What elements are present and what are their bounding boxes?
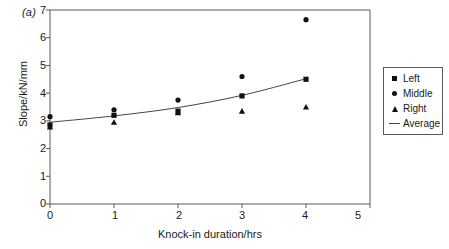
axis-ticks [46,10,370,208]
circle-marker-icon [388,91,401,96]
figure-panel-a: (a) Slope/kN/mm Knock-in duration/hrs 7 … [0,0,449,249]
data-point-right-4 [303,104,309,110]
data-point-right-3 [239,108,245,114]
data-point-left-3 [239,93,244,98]
data-point-middle-1 [111,107,116,112]
plot-canvas [0,0,449,249]
legend-item-middle[interactable]: Middle [384,86,442,101]
legend-label-average: Average [403,119,440,129]
data-point-right-1 [111,119,117,125]
plot-frame [50,10,370,204]
data-point-middle-3 [239,74,244,79]
data-point-left-1 [111,113,116,118]
legend-label-middle: Middle [403,89,432,99]
square-marker-icon [388,76,401,81]
legend-label-left: Left [403,74,420,84]
data-point-middle-4 [303,17,308,22]
data-point-middle-0 [47,114,52,119]
data-point-left-4 [303,77,308,82]
legend-item-average[interactable]: Average [384,116,442,131]
data-markers [47,17,309,129]
data-point-middle-2 [175,97,180,102]
legend-item-left[interactable]: Left [384,71,442,86]
legend-box: Left Middle Right Average [383,67,443,135]
legend-item-right[interactable]: Right [384,101,442,116]
legend-label-right: Right [403,104,426,114]
triangle-marker-icon [388,106,401,112]
line-marker-icon [388,123,401,124]
